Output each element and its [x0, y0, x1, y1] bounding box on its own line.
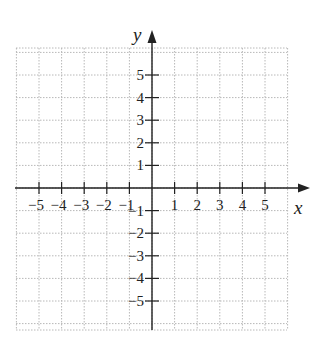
- y-tick-label: 1: [137, 157, 145, 173]
- y-tick-label: 4: [137, 90, 145, 106]
- x-tick-label: 1: [171, 197, 179, 213]
- y-tick-label: 3: [137, 112, 145, 128]
- x-axis-arrow-icon: [298, 184, 310, 193]
- y-tick-label: 2: [137, 135, 145, 151]
- y-tick-label: −1: [128, 203, 144, 219]
- x-tick-label: 3: [216, 197, 224, 213]
- x-tick-label: 4: [239, 197, 247, 213]
- y-tick-label: −3: [128, 248, 144, 264]
- x-axis-label: x: [293, 197, 303, 218]
- x-tick-label: −5: [28, 197, 44, 213]
- coordinate-plane: −5−4−3−2−112345−5−4−3−2−112345 x y: [0, 0, 316, 352]
- y-tick-label: −2: [128, 225, 144, 241]
- y-axis-label: y: [131, 24, 142, 45]
- x-tick-label: −3: [73, 197, 89, 213]
- y-tick-label: −5: [128, 293, 144, 309]
- x-tick-label: −4: [51, 197, 67, 213]
- x-tick-label: 5: [261, 197, 269, 213]
- x-tick-label: 2: [193, 197, 201, 213]
- x-tick-label: −2: [96, 197, 112, 213]
- y-tick-label: 5: [137, 67, 145, 83]
- y-tick-label: −4: [128, 270, 144, 286]
- y-axis-arrow-icon: [148, 30, 157, 43]
